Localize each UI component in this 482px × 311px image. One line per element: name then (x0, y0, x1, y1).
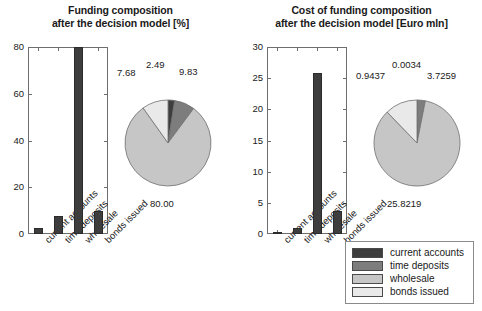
y-axis-tick-mark (343, 78, 347, 79)
bar-time-deposits (293, 228, 302, 234)
y-axis-tick-mark (104, 187, 108, 188)
y-axis-tick-mark (267, 203, 271, 204)
pie-value-label-current-accounts: 2.49 (146, 60, 165, 70)
y-axis-tick-mark (267, 109, 271, 110)
bar-wholesale (313, 73, 322, 234)
x-axis-tick-mark (317, 47, 318, 51)
y-axis-tick-label: 30 (252, 42, 263, 52)
y-axis-tick-mark (104, 94, 108, 95)
x-axis-tick-mark (337, 47, 338, 51)
bar-bonds-issued (333, 211, 342, 234)
y-axis-tick-mark (343, 172, 347, 173)
y-axis-tick-mark (267, 78, 271, 79)
legend-item: wholesale (352, 272, 467, 285)
legend-label: bonds issued (390, 286, 449, 297)
x-axis-label-wholesale: wholesale (322, 238, 329, 245)
left-title-line-1: Funding composition (68, 4, 173, 16)
legend-swatch-current-accounts (352, 248, 383, 258)
legend-item: current accounts (352, 246, 467, 259)
y-axis-tick-label: 60 (13, 89, 24, 99)
left-panel: Funding composition after the decision m… (0, 0, 241, 311)
y-axis-tick-label: 20 (252, 105, 263, 115)
y-axis-tick-label: 0 (19, 229, 24, 239)
pie-value-label-time-deposits: 0.9437 (356, 71, 385, 81)
y-axis-tick-label: 15 (252, 136, 263, 146)
bar-wholesale (74, 47, 83, 234)
pie-svg (373, 99, 461, 187)
y-axis-tick-mark (104, 141, 108, 142)
legend-swatch-time-deposits (352, 261, 383, 271)
x-axis-tick-mark (38, 47, 39, 51)
y-axis-tick-mark (28, 94, 32, 95)
legend-item: time deposits (352, 259, 467, 272)
legend-label: current accounts (390, 247, 464, 258)
right-chart-title: Cost of funding composition after the de… (241, 4, 482, 30)
y-axis-tick-mark (267, 141, 271, 142)
x-axis-label-bonds-issued: bonds issued (103, 238, 110, 245)
bar-bonds-issued (94, 211, 103, 234)
legend-label: time deposits (390, 260, 449, 271)
y-axis-tick-label: 80 (13, 42, 24, 52)
pie-value-label-bonds-issued: 3.7259 (427, 71, 456, 81)
left-title-line-2: after the decision model [%] (0, 17, 241, 30)
x-axis-label-time-deposits: time deposits (302, 238, 309, 245)
bar-current-accounts (273, 232, 282, 234)
x-axis-label-wholesale: wholesale (83, 238, 90, 245)
legend: current accounts time deposits wholesale… (345, 241, 474, 304)
bar-time-deposits (54, 216, 63, 234)
pie-value-label-time-deposits: 7.68 (117, 68, 136, 78)
left-chart-title: Funding composition after the decision m… (0, 4, 241, 30)
pie-value-label-bonds-issued: 9.83 (179, 67, 198, 77)
y-axis-tick-label: 0 (258, 229, 263, 239)
x-axis-label-time-deposits: time deposits (63, 238, 70, 245)
right-title-line-2: after the decision model [Euro mln] (241, 17, 482, 30)
y-axis-tick-label: 20 (13, 183, 24, 193)
y-axis-tick-label: 25 (252, 73, 263, 83)
bar-current-accounts (34, 228, 43, 234)
y-axis-tick-mark (343, 141, 347, 142)
x-axis-tick-mark (297, 47, 298, 51)
y-axis-tick-mark (28, 141, 32, 142)
legend-item: bonds issued (352, 285, 467, 298)
legend-swatch-wholesale (352, 274, 383, 284)
x-axis-label-current-accounts: current accounts (43, 238, 50, 245)
y-axis-tick-label: 5 (258, 198, 263, 208)
x-axis-tick-mark (277, 47, 278, 51)
legend-label: wholesale (390, 273, 434, 284)
funding-composition-bar-chart: 020406080current accountstime depositswh… (28, 47, 108, 234)
y-axis-tick-mark (267, 172, 271, 173)
pie-value-label-wholesale: 80.00 (150, 199, 174, 209)
y-axis-tick-label: 10 (252, 167, 263, 177)
pie-value-label-current-accounts: 0.0034 (392, 60, 421, 70)
x-axis-label-current-accounts: current accounts (282, 238, 289, 245)
cost-of-funding-bar-chart: 051015202530current accountstime deposit… (267, 47, 347, 234)
pie-value-label-wholesale: 25.8219 (387, 199, 421, 209)
y-axis-tick-mark (343, 109, 347, 110)
y-axis-tick-label: 40 (13, 136, 24, 146)
y-axis-tick-mark (28, 187, 32, 188)
pie-svg (124, 99, 212, 187)
legend-swatch-bonds-issued (352, 287, 383, 297)
right-title-line-1: Cost of funding composition (291, 4, 431, 16)
x-axis-tick-mark (98, 47, 99, 51)
x-axis-tick-mark (58, 47, 59, 51)
